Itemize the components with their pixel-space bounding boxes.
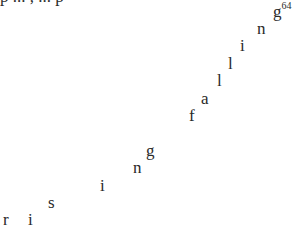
letter-l: l: [228, 55, 233, 72]
letter-r: r: [3, 211, 9, 228]
letter-i: i: [240, 37, 245, 54]
letter-n: n: [257, 20, 266, 37]
letter-g: g64: [273, 3, 292, 20]
letter-l: l: [217, 72, 222, 89]
letter-i: i: [28, 211, 33, 228]
letter-n: n: [133, 159, 142, 176]
clipped-text-line: p ... , ... p: [0, 0, 64, 7]
letter-s: s: [48, 194, 55, 211]
footnote-marker: 64: [282, 0, 292, 11]
letter-f: f: [189, 107, 195, 124]
letter-a: a: [201, 90, 209, 107]
letter-i: i: [100, 177, 105, 194]
letter-g: g: [146, 142, 155, 159]
